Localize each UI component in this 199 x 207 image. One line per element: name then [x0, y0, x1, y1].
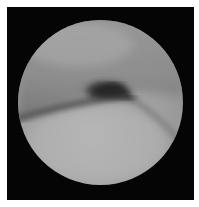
endoscopic-field [18, 20, 183, 185]
image-frame [7, 7, 194, 200]
tissue-fold-illustration [18, 20, 183, 185]
